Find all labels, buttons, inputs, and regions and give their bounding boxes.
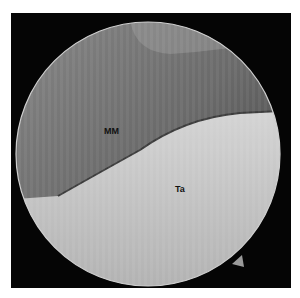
label-ta: Ta <box>175 184 185 194</box>
label-mm: MM <box>104 126 119 136</box>
scope-notch-marker <box>232 255 244 267</box>
arthroscopic-view <box>0 0 300 298</box>
scope-circle <box>0 0 300 298</box>
